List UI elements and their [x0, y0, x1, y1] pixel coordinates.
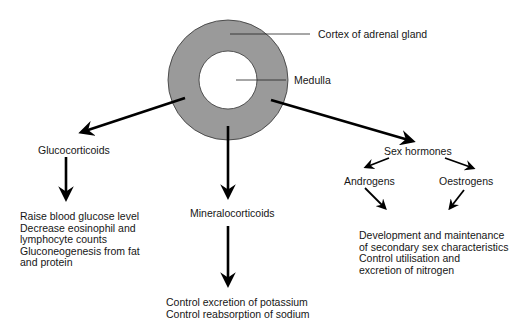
arrow-to-androgens [366, 158, 389, 167]
arrow-to-glucocorticoids [82, 98, 185, 132]
mineralocorticoids-effects: Control excretion of potassium Control r… [166, 297, 310, 320]
mineralocorticoids-title: Mineralocorticoids [190, 208, 275, 220]
adrenal-diagram [0, 0, 520, 333]
androgens-label: Androgens [344, 176, 395, 188]
sex-hormones-title: Sex hormones [384, 146, 452, 158]
glucocorticoids-title: Glucocorticoids [38, 145, 110, 157]
sex-hormones-effects: Development and maintenance of secondary… [359, 230, 508, 276]
cortex-label: Cortex of adrenal gland [318, 29, 427, 41]
mineralo-effect: Control excretion of potassium [166, 297, 310, 309]
sex-effect: Development and maintenance [359, 230, 508, 242]
sex-effect: excretion of nitrogen [359, 265, 508, 277]
medulla-label: Medulla [294, 75, 331, 87]
oestrogens-label: Oestrogens [439, 176, 493, 188]
arrow-androgens-effects [365, 188, 385, 208]
arrow-to-oestrogens [445, 158, 473, 168]
glucocorticoids-effects: Raise blood glucose level Decrease eosin… [20, 211, 140, 269]
arrow-to-sex-hormones [271, 100, 412, 141]
arrow-oestrogens-effects [450, 190, 464, 208]
sex-effect: Control utilisation and [359, 253, 508, 265]
gluco-effect: Raise blood glucose level [20, 211, 140, 223]
gluco-effect: and protein [20, 257, 140, 269]
gluco-effect: lymphocyte counts [20, 234, 140, 246]
mineralo-effect: Control reabsorption of sodium [166, 309, 310, 321]
